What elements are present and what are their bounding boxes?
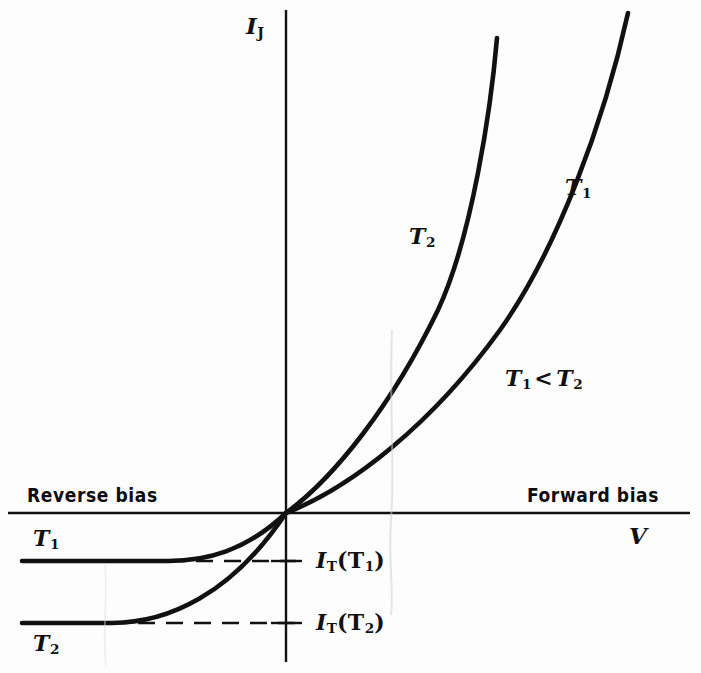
comparison-term1-sub: 1 (522, 376, 531, 392)
reverse-bias-label: Reverse bias (27, 486, 158, 505)
saturation-current-label-T1-arg: (T (337, 547, 365, 573)
comparison-term2-main: T (556, 365, 573, 391)
saturation-curve-label-T2: T2 (33, 632, 59, 657)
saturation-current-label-T1: IT(T1) (316, 549, 385, 574)
curve-label-T1-sub: 1 (582, 185, 591, 201)
scan-artifact-smudge-secondary (105, 565, 106, 665)
forward-bias-label: Forward bias (527, 486, 659, 505)
comparison-relation-symbol: < (531, 365, 556, 391)
curve-T2-reverse (22, 513, 286, 623)
saturation-current-label-T2-close: ) (374, 609, 385, 635)
saturation-current-label-T1-sub: T (327, 558, 337, 574)
saturation-current-label-T2-arg: (T (337, 609, 365, 635)
curve-label-T1: T1 (565, 176, 591, 201)
saturation-current-label-T1-main: I (316, 547, 327, 573)
curve-label-T1-main: T (565, 174, 582, 200)
scan-artifact-smudge (390, 330, 392, 615)
saturation-current-label-T1-argsub: 1 (365, 558, 374, 574)
saturation-curve-label-T1-sub: 1 (50, 536, 59, 552)
diode-iv-characteristic-figure: IJ V Reverse bias Forward bias T2 T1 T1<… (0, 0, 701, 673)
y-axis-label-main: I (246, 12, 257, 39)
saturation-current-label-T2-sub: T (327, 620, 337, 636)
temperature-comparison-annotation: T1<T2 (505, 367, 583, 392)
saturation-current-label-T1-close: ) (374, 547, 385, 573)
comparison-term1-main: T (505, 365, 522, 391)
y-axis-label: IJ (246, 14, 264, 40)
curve-T1-reverse (22, 513, 286, 561)
saturation-current-label-T2-main: I (316, 609, 327, 635)
curve-label-T2-main: T (409, 223, 426, 249)
curve-label-T2-sub: 2 (426, 234, 435, 250)
saturation-current-label-T2: IT(T2) (316, 611, 385, 636)
curve-label-T2: T2 (409, 225, 435, 250)
saturation-curve-label-T2-sub: 2 (50, 641, 59, 657)
saturation-curve-label-T2-main: T (33, 630, 50, 656)
x-axis-label: V (629, 524, 647, 547)
saturation-current-label-T2-argsub: 2 (365, 620, 374, 636)
comparison-term2-sub: 2 (573, 376, 582, 392)
saturation-curve-label-T1: T1 (33, 527, 59, 552)
y-axis-label-sub: J (257, 25, 264, 41)
saturation-curve-label-T1-main: T (33, 525, 50, 551)
